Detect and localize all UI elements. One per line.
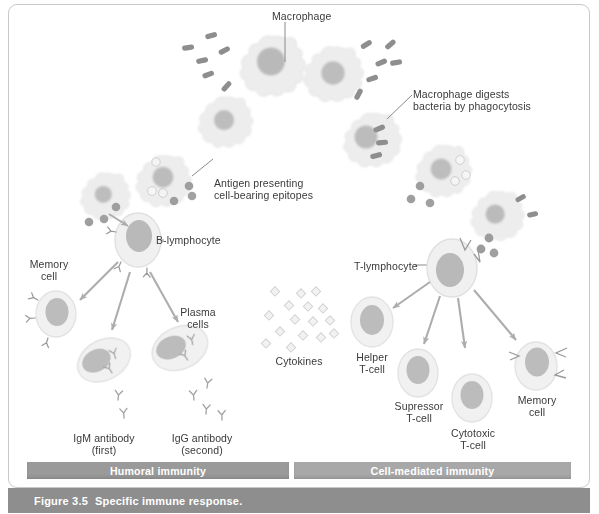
b-cell-differentiation-arrows — [80, 262, 178, 330]
label-memory-cell-line2: cell — [14, 270, 84, 282]
helper-t-cell — [351, 297, 393, 347]
label-memory-t-line2: cell — [506, 406, 568, 418]
label-plasma-cells-line1: Plasma — [168, 306, 228, 318]
label-cytotoxic-t-line1: Cytotoxic — [440, 427, 506, 439]
label-igg-line2: (second) — [152, 444, 252, 456]
bar-humoral-immunity: Humoral immunity — [27, 462, 289, 479]
memory-b-cell — [26, 291, 76, 348]
arrow-to-memory-t — [474, 290, 516, 340]
igg-antibodies — [189, 378, 225, 420]
label-phagocytosis-line1: Macrophage digests — [413, 88, 509, 100]
cytotoxic-t-cell — [452, 374, 492, 422]
leader-phagocytosis — [387, 95, 412, 119]
label-memory-cell-line1: Memory — [14, 258, 84, 270]
leader-apc — [192, 159, 213, 176]
label-igm-line2: (first) — [54, 444, 154, 456]
label-supressor-t-line2: T-cell — [386, 412, 452, 424]
label-apc-line2: cell-bearing epitopes — [214, 189, 313, 201]
plasma-cell-igm — [70, 329, 138, 391]
label-helper-t-line1: Helper — [342, 351, 402, 363]
figure-root: Macrophage Macrophage digests bacteria b… — [0, 0, 599, 514]
igm-antibodies — [114, 390, 127, 418]
supressor-t-cell — [398, 349, 438, 397]
figure-caption: Figure 3.5 Specific immune response. — [8, 488, 590, 513]
label-supressor-t-line1: Supressor — [386, 400, 452, 412]
arrow-to-memory-cell — [80, 262, 118, 300]
arrow-to-cytotoxic-t — [458, 298, 465, 348]
bar-cell-mediated-immunity: Cell-mediated immunity — [294, 462, 571, 479]
label-helper-t-line2: T-cell — [342, 363, 402, 375]
cytokines-group — [261, 287, 338, 352]
arrow-to-plasma-igm — [112, 272, 130, 330]
macrophage-group — [81, 36, 525, 240]
label-t-lymphocyte: T-lymphocyte — [354, 260, 418, 272]
label-macrophage: Macrophage — [272, 10, 331, 22]
arrow-to-helper-t — [393, 282, 430, 308]
label-apc-line1: Antigen presenting — [214, 177, 303, 189]
label-cytotoxic-t-line2: T-cell — [440, 439, 506, 451]
b-lymphocyte-cell — [107, 213, 161, 277]
arrow-to-supressor-t — [424, 296, 440, 344]
label-plasma-cells-line2: cells — [168, 318, 228, 330]
label-cytokines: Cytokines — [261, 355, 337, 367]
label-igg-line1: IgG antibody — [152, 432, 252, 444]
figure-number: Figure 3.5 — [34, 495, 88, 507]
t-lymphocyte-cell — [427, 239, 477, 297]
figure-caption-text: Specific immune response. — [95, 495, 242, 507]
memory-t-cell — [515, 342, 557, 390]
label-phagocytosis-line2: bacteria by phagocytosis — [413, 100, 531, 112]
label-memory-t-line1: Memory — [506, 394, 568, 406]
label-igm-line1: IgM antibody — [54, 432, 154, 444]
label-b-lymphocyte: B-lymphocyte — [156, 234, 221, 246]
